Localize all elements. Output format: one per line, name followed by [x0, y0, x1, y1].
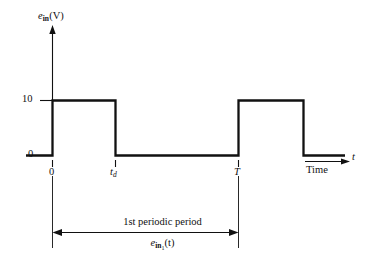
y-axis [49, 25, 55, 101]
x-tick-label-0: 0 [49, 167, 54, 178]
y-axis-label-unit: (V) [49, 10, 64, 21]
y-tick-label-10: 10 [22, 94, 33, 105]
function-argument: (t) [165, 237, 175, 248]
function-annotation: ein1(t) [0, 238, 365, 251]
time-axis-label: Time [306, 165, 328, 176]
waveform-figure: ein(V) 10 0 0 td T Time t 1st periodic p… [0, 0, 365, 265]
x-tick-label-td-subscript: d [113, 170, 117, 179]
time-variable-label: t [352, 152, 355, 163]
waveform-trace [26, 101, 345, 156]
y-tick-label-0: 0 [28, 149, 33, 160]
y-axis-label: ein(V) [38, 11, 64, 23]
function-annotation-text: ein1(t) [151, 237, 175, 248]
period-annotation-text: 1st periodic period [123, 216, 202, 227]
period-dimension-arrow [53, 229, 239, 236]
x-tick-label-td: td [110, 167, 117, 179]
period-annotation: 1st periodic period [0, 217, 365, 228]
x-tick-label-T: T [234, 167, 240, 178]
